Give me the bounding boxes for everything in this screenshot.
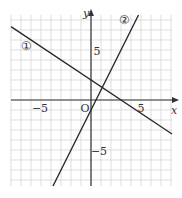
- origin-label: O: [80, 102, 89, 115]
- y-tick-label: 5: [94, 45, 101, 58]
- y-axis-label: y: [82, 7, 90, 20]
- x-axis-arrow-icon: [172, 97, 179, 103]
- y-tick-label: −5: [91, 145, 107, 158]
- x-axis-label: x: [171, 104, 178, 117]
- graph: −555−5Oxy①②: [0, 0, 182, 198]
- series-2-label: ②: [119, 13, 130, 27]
- x-tick-label: 5: [138, 102, 145, 115]
- axes: [11, 9, 179, 186]
- x-tick-label: −5: [32, 102, 48, 115]
- series-1-label: ①: [21, 39, 32, 53]
